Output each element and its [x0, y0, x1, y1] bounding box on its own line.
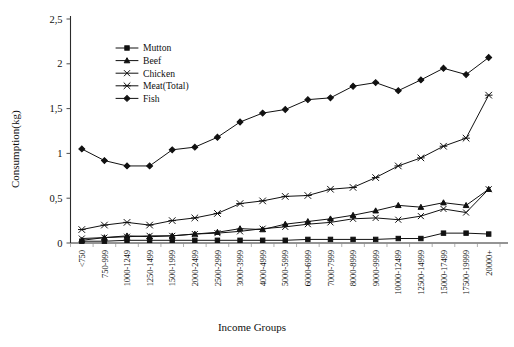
- x-tick-label: 20000+: [484, 250, 494, 276]
- x-tick-label: 10000-12499: [393, 250, 403, 295]
- y-tick-label: 0: [57, 238, 62, 249]
- legend-label: Meat(Total): [143, 80, 189, 92]
- x-tick-label: 3000-3999: [235, 250, 245, 286]
- legend-label: Chicken: [143, 68, 175, 79]
- x-tick-label: 15000-17499: [439, 250, 449, 295]
- x-tick-label: 1250-1499: [145, 250, 155, 286]
- line-chart: 00,511,522,5 <750750-9991000-12491250-14…: [0, 0, 514, 347]
- x-tick-label: 2000-2499: [190, 250, 200, 286]
- legend-label: Mutton: [143, 42, 171, 53]
- x-tick-label: 1000-1249: [122, 250, 132, 286]
- x-tick-label: 4000-4999: [258, 250, 268, 286]
- y-tick-label: 0,5: [49, 193, 62, 204]
- x-tick-label: 9000-9999: [371, 250, 381, 286]
- y-tick-label: 1,5: [49, 103, 62, 114]
- x-tick-label: 6000-6999: [303, 250, 313, 286]
- x-tick-label: 17500-19999: [461, 250, 471, 295]
- legend-label: Fish: [143, 93, 160, 104]
- x-tick-label: 750-999: [100, 250, 110, 278]
- x-tick-label: 12500-14999: [416, 250, 426, 295]
- x-tick-label: 7000-7999: [326, 250, 336, 286]
- x-axis-title: Income Groups: [218, 321, 286, 333]
- x-tick-label: 1500-1999: [167, 250, 177, 286]
- y-tick-label: 2,5: [49, 14, 62, 25]
- x-tick-label: 5000-5999: [280, 250, 290, 286]
- chart-container: 00,511,522,5 <750750-9991000-12491250-14…: [0, 0, 514, 347]
- y-tick-label: 1: [57, 148, 62, 159]
- x-tick-label: <750: [77, 250, 87, 267]
- x-tick-label: 2500-2999: [213, 250, 223, 286]
- y-axis-title: Consumption(kg): [9, 110, 22, 188]
- chart-background: [0, 0, 514, 347]
- legend-label: Beef: [143, 55, 162, 66]
- x-tick-label: 8000-8999: [348, 250, 358, 286]
- y-tick-label: 2: [57, 58, 62, 69]
